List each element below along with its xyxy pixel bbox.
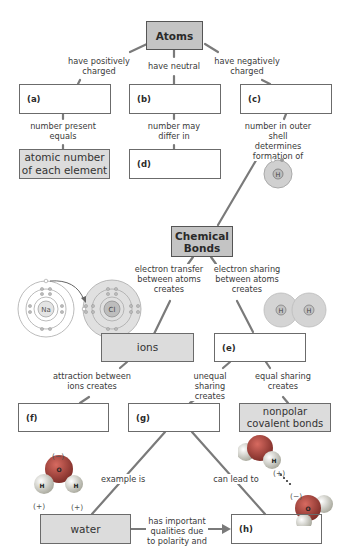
- nonpolar-covalent-bonds-node: nonpolar covalent bonds: [239, 403, 331, 432]
- node-a[interactable]: (a): [19, 84, 111, 114]
- concept-map: Atoms have positively charged have neutr…: [0, 0, 347, 555]
- hb-charge-minus: (−): [290, 492, 302, 501]
- node-f-label: (f): [19, 413, 37, 423]
- node-h[interactable]: (h): [231, 514, 322, 544]
- svg-text:H: H: [276, 171, 281, 179]
- node-c-label: (c): [241, 94, 261, 104]
- link-electron-sharing: electron sharing between atoms creates: [211, 264, 283, 294]
- water-label: water: [71, 523, 101, 536]
- charge-plus-right: (+): [71, 503, 83, 512]
- atoms-node: Atoms: [146, 21, 203, 50]
- atomic-number-node: atomic number of each element: [19, 149, 110, 179]
- node-f[interactable]: (f): [18, 403, 109, 432]
- svg-text:H: H: [279, 307, 284, 315]
- svg-text:O: O: [56, 466, 61, 473]
- link-attraction: attraction between ions creates: [52, 371, 132, 391]
- svg-text:Na: Na: [41, 306, 51, 314]
- svg-text:H: H: [73, 482, 78, 489]
- link-equal-sharing: equal sharing creates: [253, 371, 313, 391]
- charge-minus: (−): [52, 452, 64, 461]
- chemical-bonds-node: Chemical Bonds: [171, 226, 233, 257]
- na-cl-electron-transfer-illustration: Na Cl: [14, 276, 144, 340]
- node-g-label: (g): [129, 413, 150, 423]
- nonpolar-label: nonpolar covalent bonds: [240, 406, 330, 430]
- link-example-is: example is: [101, 474, 145, 484]
- link-electron-transfer: electron transfer between atoms creates: [134, 264, 204, 294]
- node-e[interactable]: (e): [214, 333, 306, 362]
- link-neutral: have neutral: [146, 61, 202, 71]
- node-d-label: (d): [130, 159, 151, 169]
- charge-plus-left: (+): [33, 502, 45, 511]
- link-unequal-sharing: unequal sharing creates: [180, 371, 240, 401]
- chemical-bonds-label: Chemical Bonds: [172, 230, 232, 254]
- link-important-qualities: has important qualities due to polarity …: [146, 516, 208, 546]
- node-e-label: (e): [215, 343, 236, 353]
- link-number-may-differ: number may differ in: [144, 121, 204, 141]
- svg-text:H: H: [307, 307, 312, 315]
- svg-text:H: H: [271, 457, 276, 464]
- node-b-label: (b): [130, 94, 151, 104]
- atoms-label: Atoms: [156, 30, 194, 42]
- link-negatively-charged: have negatively charged: [214, 56, 280, 76]
- node-a-label: (a): [20, 94, 41, 104]
- hb-charge-plus: (+): [273, 469, 285, 478]
- svg-text:O: O: [305, 505, 310, 512]
- ions-node: ions: [101, 333, 194, 362]
- hydrogen-bond-illustration: H O: [238, 434, 338, 526]
- h2-molecule-illustration: H H: [262, 291, 328, 329]
- node-c[interactable]: (c): [240, 84, 332, 114]
- atomic-number-label: atomic number of each element: [20, 151, 109, 177]
- water-node: water: [40, 514, 131, 544]
- svg-text:Cl: Cl: [109, 306, 116, 314]
- ions-label: ions: [137, 341, 158, 354]
- node-b[interactable]: (b): [129, 84, 221, 114]
- link-positively-charged: have positively charged: [68, 56, 130, 76]
- node-g[interactable]: (g): [128, 403, 220, 432]
- node-h-label: (h): [232, 524, 253, 534]
- hydrogen-atom-illustration: H: [260, 154, 296, 190]
- svg-text:H: H: [39, 482, 44, 489]
- node-d[interactable]: (d): [129, 149, 221, 179]
- link-number-present: number present equals: [28, 121, 98, 141]
